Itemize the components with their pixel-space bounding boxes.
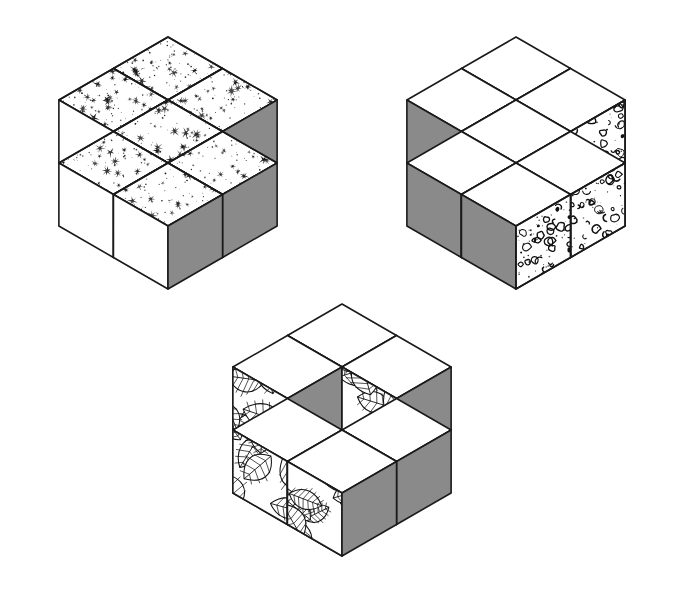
figure-canvas [0,0,682,593]
isometric-cube-artwork [0,0,682,593]
